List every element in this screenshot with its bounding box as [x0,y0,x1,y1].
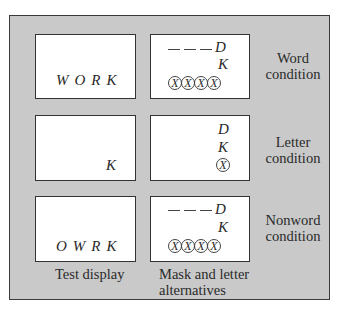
mask-symbols: X X X X [168,239,220,253]
mask-symbols: X X X X [168,76,220,90]
alternative-d: D [215,40,226,55]
dash-line [168,49,180,50]
test-display-text-word: WORK [56,73,123,88]
circled-x-icon: X [194,76,208,90]
alternative-d: D [218,122,229,137]
dash-line [184,49,196,50]
circled-x-icon: X [194,239,208,253]
dash-line [200,49,212,50]
condition-label-word: Word condition [255,50,331,82]
test-display-box-word [35,34,136,99]
dash-line [200,210,212,211]
mask-symbols: X [216,158,229,172]
circled-x-icon: X [168,239,182,253]
dash-line [184,210,196,211]
dash-line [168,210,180,211]
mask-box-letter [150,115,250,181]
test-display-box-letter [35,115,136,181]
circled-x-icon: X [207,76,221,90]
alternative-d: D [215,202,226,217]
caption-mask-alternatives: Mask and letter alternatives [159,266,249,298]
circled-x-icon: X [181,76,195,90]
condition-label-letter: Letter condition [255,134,331,166]
circled-x-icon: X [181,239,195,253]
caption-test-display: Test display [55,266,124,282]
alternative-k: K [218,220,228,235]
alternative-k: K [218,57,228,72]
condition-label-nonword: Nonword condition [255,212,331,244]
alternative-k: K [218,140,228,155]
test-display-text-letter: K [106,158,116,173]
circled-x-icon: X [207,239,221,253]
circled-x-icon: X [216,158,230,172]
test-display-text-nonword: OWRK [56,239,123,254]
circled-x-icon: X [168,76,182,90]
